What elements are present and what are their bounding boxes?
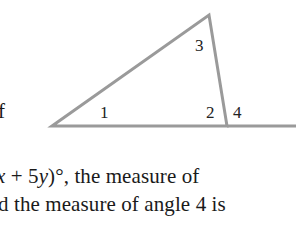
angle-label-1: 1 — [100, 103, 109, 122]
line1-rest: )°, the measure of — [48, 164, 199, 188]
angle-label-3: 3 — [195, 36, 204, 55]
triangle-figure: 1 3 2 4 — [0, 0, 296, 140]
angle-label-2: 2 — [206, 103, 215, 122]
angle-label-4: 4 — [233, 103, 242, 122]
text-line-2: d the measure of angle 4 is — [0, 194, 226, 215]
plus-five: + 5 — [5, 164, 38, 188]
triangle — [52, 15, 227, 126]
text-line-1: x + 5y)°, the measure of — [0, 166, 199, 187]
variable-y: y — [39, 164, 48, 188]
